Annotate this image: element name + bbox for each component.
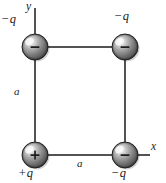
charge-label-top-left: −q: [1, 13, 16, 26]
square-edges: [35, 47, 125, 155]
x-axis-label: x: [151, 141, 156, 153]
minus-sign-bottom-right: [121, 154, 130, 156]
physics-figure: y x a a −q −q +q −q: [0, 0, 166, 183]
charge-label-top-right: −q: [114, 10, 129, 23]
charge-label-bottom-right: −q: [111, 167, 126, 180]
side-length-label-vertical: a: [14, 86, 20, 97]
side-length-label-horizontal: a: [77, 158, 83, 169]
axis-lines: [35, 8, 150, 155]
charge-sphere-top-right: [112, 34, 140, 62]
minus-sign-top-left: [31, 46, 40, 48]
charge-spheres: [22, 34, 140, 170]
charge-label-bottom-left: +q: [18, 167, 33, 180]
figure-canvas: [0, 0, 166, 183]
minus-sign-top-right: [121, 46, 130, 48]
y-axis-label: y: [26, 1, 31, 13]
charge-sphere-top-left: [22, 34, 50, 62]
